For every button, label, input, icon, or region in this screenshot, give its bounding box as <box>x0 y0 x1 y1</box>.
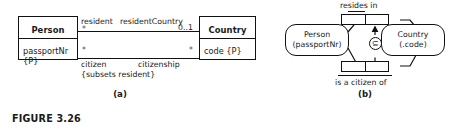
orm-predicate-resides-in <box>341 14 389 25</box>
orm-predicate-label-resides-in: resides in <box>340 2 377 10</box>
orm-entity-country-name: Country <box>398 30 429 40</box>
association-line-citizen <box>78 58 199 59</box>
orm-entity-person-name: Person <box>304 30 330 40</box>
figure-caption: FIGURE 3.26 <box>12 113 81 124</box>
class-attribute-person-passportnr: passportNr {P} <box>23 46 77 66</box>
role-label-citizen: citizen <box>81 61 107 69</box>
orm-entity-person: Person (passportNr) <box>285 24 349 56</box>
class-name-person: Person <box>19 25 77 35</box>
class-attribute-country-code: code {P} <box>204 46 242 56</box>
role-label-resident-country: residentCountry <box>120 18 183 26</box>
class-divider-country <box>200 38 256 39</box>
role-label-citizenship: citizenship <box>138 61 180 69</box>
predicate-cell-divider-2 <box>365 62 366 71</box>
class-box-person: Person passportNr {P} <box>18 16 78 60</box>
part-label-a: (a) <box>100 89 140 99</box>
multiplicity-resident-target: 0..1 <box>178 24 193 32</box>
class-name-country: Country <box>200 25 255 35</box>
subset-constraint-icon: ⊆ <box>369 37 382 50</box>
uniqueness-constraint-is-a-citizen-of <box>338 75 392 76</box>
panel-a: Person passportNr {P} Country code {P} r… <box>0 0 272 100</box>
part-label-b: (b) <box>345 89 385 99</box>
panel-b: Person (passportNr) Country (.code) resi… <box>278 0 452 100</box>
multiplicity-citizen-source: * <box>82 46 86 54</box>
orm-entity-country: Country (.code) <box>381 24 445 56</box>
constraint-subsets-resident: {subsets resident} <box>81 71 155 79</box>
multiplicity-citizen-target: * <box>189 46 193 54</box>
subset-symbol: ⊆ <box>372 40 379 48</box>
class-box-country: Country code {P} <box>199 16 256 60</box>
orm-entity-person-refmode: (passportNr) <box>293 40 342 50</box>
multiplicity-resident-source: * <box>82 25 86 33</box>
figure-3-26: Person passportNr {P} Country code {P} r… <box>0 0 452 132</box>
orm-entity-country-refmode: (.code) <box>399 40 426 50</box>
orm-predicate-is-a-citizen-of <box>341 61 389 72</box>
orm-predicate-label-is-a-citizen-of: is a citizen of <box>335 79 386 87</box>
uniqueness-constraint-resides-in <box>348 11 365 12</box>
predicate-cell-divider <box>365 15 366 24</box>
class-divider-person <box>19 38 78 39</box>
